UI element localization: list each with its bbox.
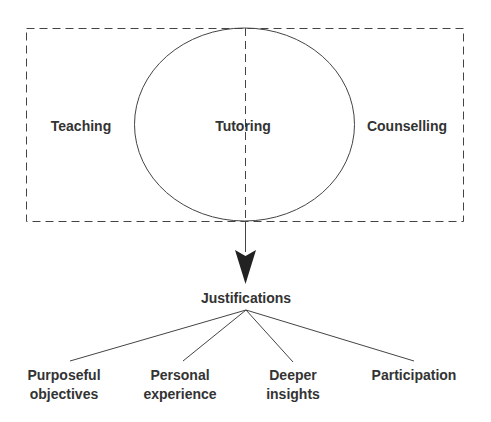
child-line2: objectives bbox=[27, 385, 100, 404]
child-line1: Deeper bbox=[266, 366, 320, 385]
child-purposeful-objectives: Purposeful objectives bbox=[27, 366, 100, 404]
label-teaching: Teaching bbox=[51, 117, 111, 136]
child-personal-experience: Personal experience bbox=[143, 366, 216, 404]
child-deeper-insights: Deeper insights bbox=[266, 366, 320, 404]
diagram-canvas bbox=[0, 0, 491, 422]
label-justifications: Justifications bbox=[201, 289, 291, 308]
branch-lines bbox=[70, 310, 414, 362]
arrow-head-icon bbox=[235, 250, 256, 284]
child-participation: Participation bbox=[372, 366, 457, 385]
child-line1: Purposeful bbox=[27, 366, 100, 385]
label-tutoring: Tutoring bbox=[215, 117, 271, 136]
child-line1: Participation bbox=[372, 366, 457, 385]
child-line2: insights bbox=[266, 385, 320, 404]
child-line1: Personal bbox=[143, 366, 216, 385]
child-line2: experience bbox=[143, 385, 216, 404]
label-counselling: Counselling bbox=[367, 117, 447, 136]
